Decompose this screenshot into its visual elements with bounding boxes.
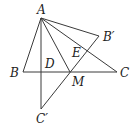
label-e: E [71, 46, 81, 60]
label-c: C [120, 66, 129, 80]
geometry-diagram: A B C D M B′ C′ E [0, 0, 139, 128]
label-m: M [71, 75, 85, 89]
label-a: A [36, 3, 46, 17]
label-b-prime: B′ [102, 30, 115, 44]
label-b: B [9, 66, 19, 80]
label-d: D [44, 57, 55, 71]
segment-ab [23, 18, 41, 72]
diagram-svg: A B C D M B′ C′ E [0, 0, 139, 128]
label-c-prime: C′ [36, 112, 48, 126]
